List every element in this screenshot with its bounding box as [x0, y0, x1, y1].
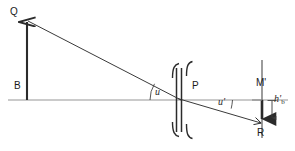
lens-bracket-bottom-right: [187, 124, 193, 139]
lens-bracket-top-right: [187, 62, 193, 77]
label-image-axis-point: M': [256, 78, 266, 88]
label-object-top: Q: [10, 7, 18, 17]
label-image-height-subscript: b: [281, 98, 285, 106]
label-lens-center: P: [192, 81, 199, 91]
angle-arc-u-prime: [231, 100, 232, 109]
label-image-bottom: R: [257, 128, 264, 138]
label-image-height: h'b: [274, 94, 285, 104]
label-angle-u: u: [155, 87, 160, 97]
diagram-canvas: [0, 0, 295, 151]
label-angle-u-prime: u': [218, 97, 225, 107]
ray-diagram: Q B P M' R u u' h'b: [0, 0, 295, 151]
label-object-base: B: [14, 81, 21, 91]
